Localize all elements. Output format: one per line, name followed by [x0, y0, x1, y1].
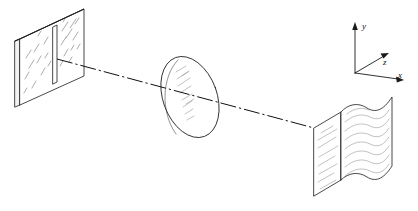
lens-outline: [150, 48, 229, 145]
z-axis-line: [355, 56, 384, 73]
optics-diagram: y z x: [0, 0, 418, 211]
figure-root: y z x: [0, 0, 418, 211]
z-axis-label: z: [382, 57, 387, 67]
lens: [150, 48, 229, 145]
slit-plate-front-face: [20, 9, 84, 105]
slit-plate: [15, 9, 84, 107]
screen-right-panel: [341, 97, 392, 180]
coordinate-axes: y z x: [352, 21, 404, 83]
y-axis-arrowhead: [352, 22, 358, 30]
observation-screen: [314, 97, 392, 196]
x-axis-label: x: [397, 70, 402, 80]
slit-plate-edge-face: [15, 39, 20, 107]
slit-aperture: [53, 25, 57, 84]
x-axis-line: [355, 73, 398, 79]
screen-left-panel: [314, 112, 341, 196]
y-axis-label: y: [361, 21, 366, 31]
